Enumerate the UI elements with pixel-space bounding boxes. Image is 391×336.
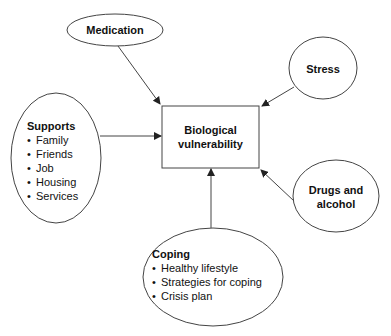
coping-item: Strategies for coping — [152, 275, 282, 289]
coping-item: Crisis plan — [152, 289, 282, 303]
supports-item: Friends — [27, 147, 102, 161]
arrow-stress — [262, 87, 294, 106]
supports-item: Services — [27, 189, 102, 203]
coping-list: Healthy lifestyle Strategies for coping … — [152, 261, 282, 303]
supports-item: Job — [27, 161, 102, 175]
drugs-label: Drugs and alcohol — [293, 183, 379, 211]
drugs-line2: alcohol — [293, 197, 379, 211]
coping-title: Coping — [152, 247, 282, 261]
supports-item: Family — [27, 133, 102, 147]
drugs-line1: Drugs and — [293, 183, 379, 197]
medication-label: Medication — [67, 23, 163, 37]
coping-label: Coping Healthy lifestyle Strategies for … — [152, 247, 282, 303]
supports-label: Supports Family Friends Job Housing Serv… — [27, 119, 102, 203]
stress-label: Stress — [289, 62, 357, 76]
coping-item: Healthy lifestyle — [152, 261, 282, 275]
supports-title: Supports — [27, 119, 102, 133]
center-line2: vulnerability — [162, 137, 259, 151]
supports-list: Family Friends Job Housing Services — [27, 133, 102, 203]
center-line1: Biological — [162, 123, 259, 137]
supports-item: Housing — [27, 175, 102, 189]
arrow-drugs — [261, 170, 294, 201]
biological-vulnerability-label: Biological vulnerability — [162, 123, 259, 151]
arrow-medication — [118, 46, 160, 104]
